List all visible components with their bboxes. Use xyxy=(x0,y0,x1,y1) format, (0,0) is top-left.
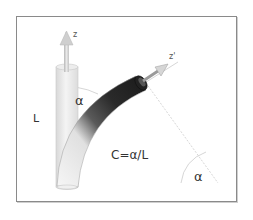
z-prime-axis-arrow xyxy=(143,64,168,81)
z-prime-axis-label: z' xyxy=(169,53,175,61)
angle-alpha-bottom-label: α xyxy=(194,170,203,183)
angle-alpha-top-label: α xyxy=(75,94,84,107)
z-axis-label: z xyxy=(73,31,77,39)
length-label: L xyxy=(33,113,39,124)
diagram-canvas xyxy=(0,0,253,220)
curvature-equation: C=α/L xyxy=(111,149,148,161)
